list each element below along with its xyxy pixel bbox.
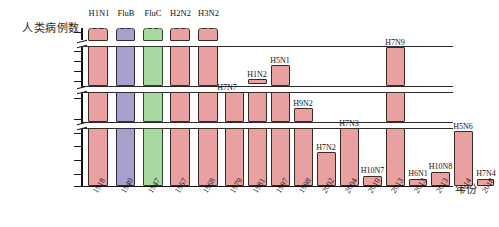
- bar-top-notch-icon: [171, 28, 189, 33]
- y-axis-segment-1: [81, 128, 83, 187]
- bar-segment: [170, 28, 190, 41]
- influenza-human-cases-bar-chart: 人类病例数 年份 10000 2000 1500 1000 500 100 40…: [0, 0, 499, 227]
- bar-label-h10n7: H10N7: [355, 166, 390, 175]
- bar-segment: [88, 28, 108, 41]
- bar-label-h1n1: H1N1: [86, 8, 112, 18]
- bar-segment: [248, 79, 267, 84]
- tick-mark: [74, 32, 81, 33]
- bar-segment: [170, 92, 190, 122]
- y-axis-segment-3: [81, 46, 83, 86]
- bar-segment: [116, 46, 135, 86]
- bar-segment: [386, 47, 405, 86]
- bar-label-h1n2: H1N2: [242, 70, 272, 79]
- y-axis-segment-4: [81, 28, 83, 40]
- bar-top-notch-icon: [199, 28, 217, 33]
- bar-segment: [170, 46, 190, 86]
- bar-label-h7n2: H7N2: [311, 143, 341, 152]
- y-axis-segment-2: [81, 92, 83, 122]
- bar-segment: [248, 92, 267, 122]
- tick-mark: [74, 61, 81, 62]
- tick-mark: [74, 51, 81, 52]
- bar-segment: [143, 28, 163, 41]
- bar-label-h7n7: H7N7: [212, 83, 242, 92]
- bar-segment: [271, 65, 290, 86]
- bar-label-h7n4: H7N4: [471, 169, 499, 178]
- bar-segment: [294, 108, 313, 122]
- bar-segment: [143, 46, 163, 86]
- bar-top-notch-icon: [89, 28, 107, 33]
- tick-mark: [74, 119, 81, 120]
- bar-label-h2n2: H2N2: [167, 8, 194, 18]
- bar-segment: [116, 28, 135, 41]
- segment-rule: [81, 122, 453, 123]
- segment-rule: [81, 86, 453, 87]
- bar-segment: [386, 92, 405, 122]
- tick-mark: [74, 174, 81, 175]
- tick-mark: [74, 81, 81, 82]
- bar-segment: [198, 92, 218, 122]
- bar-label-h5n6: H5N6: [448, 122, 478, 131]
- bar-label-h10n8: H10N8: [423, 162, 458, 171]
- bar-segment: [88, 92, 108, 122]
- tick-mark: [74, 71, 81, 72]
- y-axis-tick-labels: 10000 2000 1500 1000 500 100 40 20 15 10…: [0, 0, 80, 227]
- bar-segment: [116, 92, 135, 122]
- tick-mark: [74, 98, 81, 99]
- bar-label-h7n3: H7N3: [334, 119, 364, 128]
- bar-segment: [88, 46, 108, 86]
- bar-segment: [225, 92, 244, 122]
- bar-label-h3n2: H3N2: [195, 8, 222, 18]
- bar-top-notch-icon: [144, 28, 162, 33]
- bar-label-fluc: FluC: [140, 8, 166, 18]
- bar-segment: [198, 28, 218, 41]
- bar-label-h9n2: H9N2: [288, 99, 318, 108]
- tick-mark: [74, 186, 81, 187]
- bar-segment: [143, 92, 163, 122]
- bar-top-notch-icon: [117, 28, 134, 33]
- tick-mark: [74, 160, 81, 161]
- bar-label-h7n9: H7N9: [380, 38, 410, 47]
- tick-mark: [74, 133, 81, 134]
- bar-segment: [198, 46, 218, 86]
- bar-label-flub: FluB: [113, 8, 139, 18]
- tick-mark: [74, 146, 81, 147]
- bar-label-h5n1: H5N1: [265, 56, 295, 65]
